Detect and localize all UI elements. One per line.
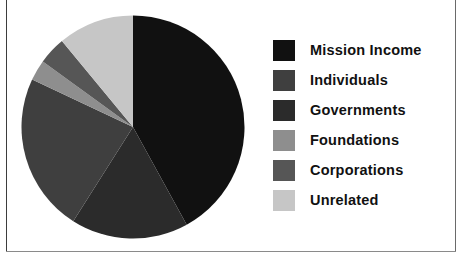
legend-item[interactable]: Individuals	[273, 65, 448, 95]
legend-item-label: Foundations	[310, 132, 399, 148]
pie-slice-group	[22, 16, 245, 239]
figure-border-left	[6, 0, 7, 252]
legend-swatch-icon	[273, 70, 295, 91]
legend-swatch-icon	[273, 40, 295, 61]
legend-swatch-icon	[273, 130, 295, 151]
legend-item-label: Governments	[310, 102, 406, 118]
pie-chart-svg	[21, 15, 245, 239]
legend-item[interactable]: Governments	[273, 95, 448, 125]
legend-swatch-icon	[273, 100, 295, 121]
legend-swatch-icon	[273, 160, 295, 181]
figure-border-right	[455, 0, 456, 252]
chart-legend: Mission IncomeIndividualsGovernmentsFoun…	[273, 35, 448, 215]
pie-chart-plot-area	[21, 15, 245, 239]
legend-item-label: Individuals	[310, 72, 388, 88]
legend-item[interactable]: Mission Income	[273, 35, 448, 65]
legend-swatch-icon	[273, 190, 295, 211]
legend-item-label: Unrelated	[310, 192, 379, 208]
figure-border-bottom	[6, 251, 456, 252]
legend-item-label: Corporations	[310, 162, 403, 178]
legend-item[interactable]: Corporations	[273, 155, 448, 185]
legend-item[interactable]: Foundations	[273, 125, 448, 155]
legend-item[interactable]: Unrelated	[273, 185, 448, 215]
legend-item-label: Mission Income	[310, 42, 422, 58]
pie-chart-figure: Mission IncomeIndividualsGovernmentsFoun…	[0, 0, 467, 255]
